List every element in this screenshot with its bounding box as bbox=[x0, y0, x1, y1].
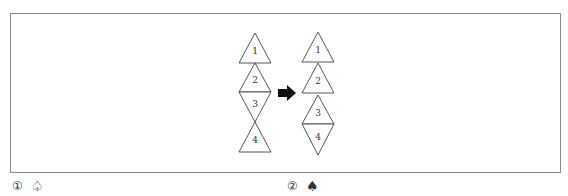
svg-text:4: 4 bbox=[315, 132, 321, 142]
svg-text:1: 1 bbox=[315, 45, 321, 55]
svg-text:2: 2 bbox=[252, 75, 258, 85]
svg-text:1: 1 bbox=[252, 46, 258, 56]
right-arrow-icon bbox=[278, 85, 296, 101]
option-2-number: ② bbox=[287, 179, 298, 193]
left-triangle-1: 1 bbox=[239, 33, 271, 63]
right-stack: 1 2 3 4 bbox=[302, 32, 334, 155]
right-triangle-4: 4 bbox=[302, 124, 334, 155]
option-1[interactable]: ① ♤ bbox=[12, 178, 44, 194]
svg-text:3: 3 bbox=[315, 108, 321, 118]
left-stack: 1 2 3 4 bbox=[239, 33, 271, 152]
right-triangle-1: 1 bbox=[302, 32, 334, 62]
left-triangle-2: 2 bbox=[239, 63, 271, 92]
svg-text:2: 2 bbox=[315, 76, 321, 86]
option-1-number: ① bbox=[12, 179, 23, 193]
spade-filled-icon: ♠ bbox=[306, 178, 319, 194]
option-2[interactable]: ② ♠ bbox=[287, 178, 319, 194]
right-triangle-3: 3 bbox=[302, 95, 334, 124]
right-triangle-2: 2 bbox=[302, 63, 334, 93]
svg-text:4: 4 bbox=[252, 135, 258, 145]
spade-outline-icon: ♤ bbox=[31, 178, 44, 194]
left-triangle-3: 3 bbox=[239, 92, 271, 122]
triangle-diagram: 1 2 3 4 1 2 3 bbox=[0, 0, 568, 196]
left-triangle-4: 4 bbox=[239, 122, 271, 152]
svg-text:3: 3 bbox=[252, 99, 258, 109]
